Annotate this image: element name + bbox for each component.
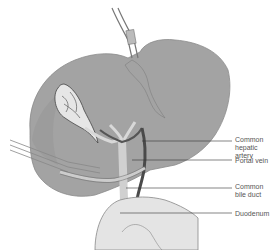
anatomy-illustration: [0, 0, 275, 250]
label-duodenum: Duodenum: [235, 210, 269, 218]
vessel-cuff: [126, 29, 136, 44]
label-common-bile-duct: Common bile duct: [235, 183, 263, 199]
duodenum: [95, 197, 198, 250]
common-bile-duct: [122, 140, 124, 200]
label-portal-vein: Portal vein: [235, 157, 268, 165]
